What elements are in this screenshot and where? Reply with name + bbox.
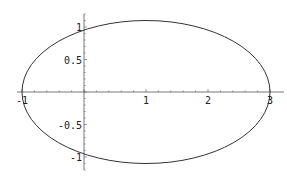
y-tick-label: 0.5 bbox=[64, 55, 82, 66]
y-tick-label: -1 bbox=[70, 152, 82, 163]
x-tick-label: 1 bbox=[143, 95, 149, 106]
chart-plot-area: -112310.5-0.5-1 bbox=[0, 0, 287, 178]
x-tick-label: -1 bbox=[16, 95, 28, 106]
x-tick-label: 2 bbox=[205, 95, 211, 106]
axes bbox=[17, 14, 284, 170]
x-tick-label: 3 bbox=[267, 95, 273, 106]
y-tick-label: 1 bbox=[76, 22, 82, 33]
y-tick-label: -0.5 bbox=[58, 120, 82, 131]
